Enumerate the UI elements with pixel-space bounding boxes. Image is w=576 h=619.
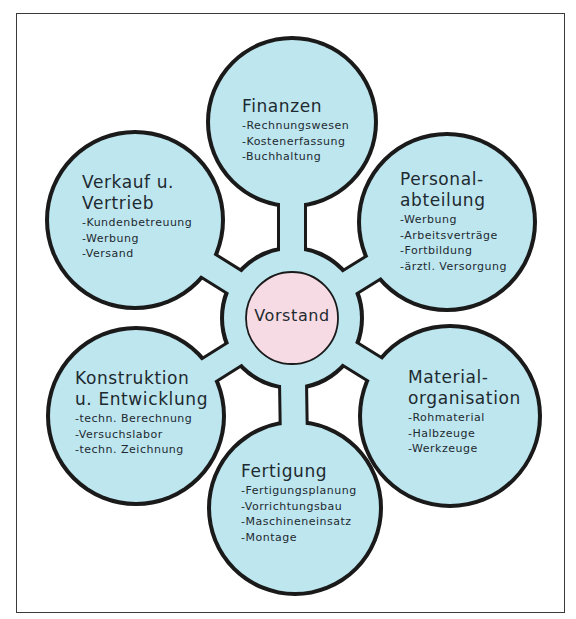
node-verkauf: Verkauf u. Vertrieb -Kundenbetreuung -We… bbox=[82, 172, 192, 262]
list-item: -Montage bbox=[241, 530, 357, 546]
node-finanzen: Finanzen -Rechnungswesen -Kostenerfassun… bbox=[242, 96, 349, 165]
list-item: -Arbeitsverträge bbox=[400, 228, 507, 244]
node-title: Verkauf u. Vertrieb bbox=[82, 172, 192, 214]
list-item: -Versand bbox=[82, 246, 192, 262]
list-item: -Werbung bbox=[82, 231, 192, 247]
list-item: -Fortbildung bbox=[400, 243, 507, 259]
list-item: -Buchhaltung bbox=[242, 149, 349, 165]
list-item: -Rechnungswesen bbox=[242, 118, 349, 134]
node-fertigung: Fertigung -Fertigungsplanung -Vorrichtun… bbox=[241, 461, 357, 545]
list-item: -Rohmaterial bbox=[408, 410, 521, 426]
list-item: -Fertigungsplanung bbox=[241, 483, 357, 499]
title-line: Fertigung bbox=[241, 461, 357, 482]
node-items: -Rechnungswesen -Kostenerfassung -Buchha… bbox=[242, 118, 349, 165]
title-line: Personal- bbox=[400, 169, 507, 190]
node-title: Finanzen bbox=[242, 96, 349, 117]
node-items: -Kundenbetreuung -Werbung -Versand bbox=[82, 215, 192, 262]
node-title: Konstruktion u. Entwicklung bbox=[75, 368, 208, 410]
node-personal: Personal- abteilung -Werbung -Arbeitsver… bbox=[400, 169, 507, 274]
title-line: organisation bbox=[408, 388, 521, 409]
list-item: -techn. Berechnung bbox=[75, 411, 208, 427]
title-line: Material- bbox=[408, 367, 521, 388]
list-item: -Kostenerfassung bbox=[242, 134, 349, 150]
node-konstruktion: Konstruktion u. Entwicklung -techn. Bere… bbox=[75, 368, 208, 458]
title-line: Verkauf u. bbox=[82, 172, 192, 193]
node-title: Fertigung bbox=[241, 461, 357, 482]
list-item: -Halbzeuge bbox=[408, 426, 521, 442]
list-item: -Kundenbetreuung bbox=[82, 215, 192, 231]
list-item: -ärztl. Versorgung bbox=[400, 259, 507, 275]
node-items: -Rohmaterial -Halbzeuge -Werkzeuge bbox=[408, 410, 521, 457]
center-label-vorstand: Vorstand bbox=[245, 306, 339, 325]
title-line: u. Entwicklung bbox=[75, 389, 208, 410]
list-item: -Werkzeuge bbox=[408, 441, 521, 457]
title-line: Vertrieb bbox=[82, 193, 192, 214]
node-items: -techn. Berechnung -Versuchslabor -techn… bbox=[75, 411, 208, 458]
title-line: abteilung bbox=[400, 190, 507, 211]
node-items: -Fertigungsplanung -Vorrichtungsbau -Mas… bbox=[241, 483, 357, 545]
title-line: Konstruktion bbox=[75, 368, 208, 389]
list-item: -Vorrichtungsbau bbox=[241, 499, 357, 515]
list-item: -Maschineneinsatz bbox=[241, 514, 357, 530]
node-material: Material- organisation -Rohmaterial -Hal… bbox=[408, 367, 521, 457]
node-title: Personal- abteilung bbox=[400, 169, 507, 211]
title-line: Finanzen bbox=[242, 96, 349, 117]
node-items: -Werbung -Arbeitsverträge -Fortbildung -… bbox=[400, 212, 507, 274]
node-title: Material- organisation bbox=[408, 367, 521, 409]
list-item: -Werbung bbox=[400, 212, 507, 228]
list-item: -Versuchslabor bbox=[75, 427, 208, 443]
list-item: -techn. Zeichnung bbox=[75, 442, 208, 458]
